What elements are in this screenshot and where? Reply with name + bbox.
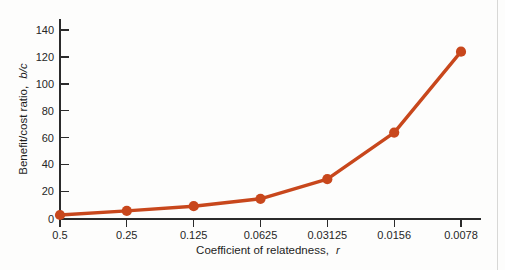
x-tick-label-6: 0.0078 bbox=[444, 229, 478, 241]
x-axis-title: Coefficient of relatedness, r bbox=[196, 244, 341, 256]
series-markers bbox=[55, 47, 466, 220]
y-tick-label-80: 80 bbox=[42, 105, 54, 117]
x-axis-title-symbol: r bbox=[336, 244, 341, 256]
y-axis-title-text: Benefit/cost ratio, bbox=[17, 86, 29, 175]
data-point-2 bbox=[189, 201, 199, 211]
x-tick-label-2: 0.125 bbox=[180, 229, 208, 241]
data-point-0 bbox=[55, 210, 65, 220]
y-tick-label-40: 40 bbox=[42, 158, 54, 170]
y-tick-label-120: 120 bbox=[36, 51, 54, 63]
data-point-1 bbox=[122, 206, 132, 216]
line-chart: 140 120 100 80 60 40 20 0 0.5 0.25 0.125… bbox=[0, 0, 505, 270]
x-tick-label-3: 0.0625 bbox=[244, 229, 278, 241]
y-tick-label-140: 140 bbox=[36, 24, 54, 36]
y-tick-label-100: 100 bbox=[36, 78, 54, 90]
data-point-6 bbox=[456, 47, 466, 57]
y-axis-tick-labels: 140 120 100 80 60 40 20 0 bbox=[36, 24, 54, 225]
x-axis-tick-labels: 0.5 0.25 0.125 0.0625 0.03125 0.0156 0.0… bbox=[52, 229, 477, 241]
y-axis-title: Benefit/cost ratio, b/c bbox=[17, 63, 29, 175]
y-axis-title-symbol: b/c bbox=[17, 63, 29, 79]
data-point-5 bbox=[389, 128, 399, 138]
x-tick-label-1: 0.25 bbox=[116, 229, 137, 241]
x-axis-ticks bbox=[60, 219, 461, 227]
x-tick-label-0: 0.5 bbox=[52, 229, 67, 241]
data-point-4 bbox=[322, 174, 332, 184]
data-point-3 bbox=[255, 194, 265, 204]
y-axis-ticks bbox=[60, 30, 69, 191]
figure-panel: 140 120 100 80 60 40 20 0 0.5 0.25 0.125… bbox=[0, 0, 505, 270]
series-line-bc-threshold bbox=[60, 52, 461, 215]
x-axis-title-text: Coefficient of relatedness, bbox=[196, 244, 329, 256]
x-tick-label-4: 0.03125 bbox=[307, 229, 347, 241]
y-tick-label-0: 0 bbox=[48, 213, 54, 225]
y-tick-label-60: 60 bbox=[42, 132, 54, 144]
x-tick-label-5: 0.0156 bbox=[377, 229, 411, 241]
y-tick-label-20: 20 bbox=[42, 185, 54, 197]
